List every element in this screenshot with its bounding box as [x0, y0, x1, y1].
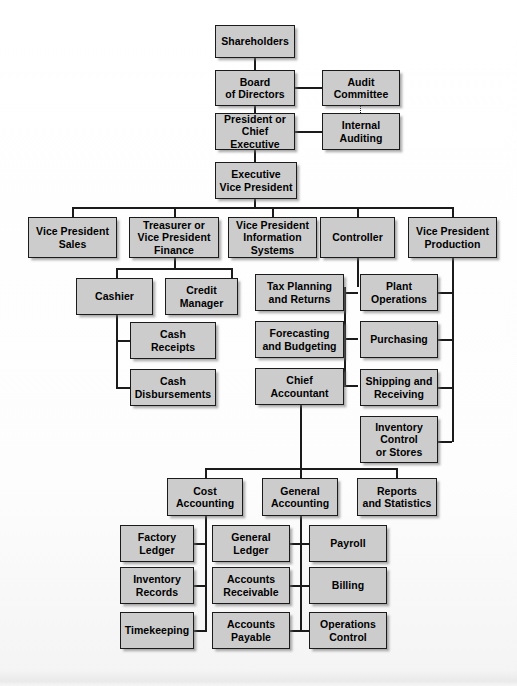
node-president[interactable]: President orChief Executive — [215, 113, 295, 150]
node-factory-ledger[interactable]: FactoryLedger — [120, 525, 194, 562]
connector-cashier-to-cash-receipts — [116, 340, 130, 342]
node-label-cost-accounting: CostAccounting — [170, 485, 240, 510]
node-label-tax-planning: Tax Planningand Returns — [258, 280, 341, 305]
node-label-audit-committee: AuditCommittee — [325, 76, 397, 101]
connector-bus-to-general-accounting — [300, 468, 302, 478]
node-label-cashier: Cashier — [79, 290, 150, 302]
node-label-vice-president-sales: Vice PresidentSales — [31, 225, 114, 250]
connector-bus-to-vp-sales — [72, 207, 74, 217]
node-label-accounts-receivable: AccountsReceivable — [215, 573, 287, 598]
connector-cashier-to-cash-disbursements — [116, 387, 130, 389]
node-label-forecasting: Forecastingand Budgeting — [258, 327, 341, 352]
node-purchasing[interactable]: Purchasing — [360, 321, 438, 358]
node-label-operations-control: OperationsControl — [312, 618, 384, 643]
node-label-shipping-receiving: Shipping andReceiving — [363, 375, 435, 400]
node-plant-operations[interactable]: PlantOperations — [360, 274, 438, 311]
node-controller[interactable]: Controller — [320, 217, 395, 258]
node-treasurer-vice-president-finance[interactable]: Treasurer orVice PresidentFinance — [129, 217, 219, 258]
connector-general-to-billing — [290, 585, 310, 587]
node-label-timekeeping: Timekeeping — [123, 624, 191, 636]
node-cashier[interactable]: Cashier — [76, 278, 153, 315]
connector-vp-production-drop — [452, 257, 454, 293]
connector-president-internal-auditing — [294, 131, 322, 133]
node-general-accounting[interactable]: GeneralAccounting — [262, 478, 338, 516]
connector-bus-to-vp-is — [272, 207, 274, 217]
node-label-vice-president-production: Vice PresidentProduction — [411, 225, 494, 250]
connector-president-executive-vp — [254, 150, 256, 162]
connector-controller-to-tax — [344, 292, 358, 294]
scan-bottom-edge — [0, 670, 517, 686]
node-credit-manager[interactable]: CreditManager — [165, 278, 238, 315]
node-label-chief-accountant: ChiefAccountant — [258, 374, 341, 399]
connector-controller-spine — [344, 287, 346, 385]
node-label-vice-president-information-systems: Vice PresidentInformationSystems — [231, 219, 314, 256]
connector-treasurer-to-credit-manager — [231, 268, 233, 278]
node-vice-president-information-systems[interactable]: Vice PresidentInformationSystems — [228, 217, 317, 258]
node-accounts-receivable[interactable]: AccountsReceivable — [212, 567, 290, 604]
node-label-general-ledger: GeneralLedger — [215, 531, 287, 556]
connector-treasurer-to-cashier — [116, 268, 118, 278]
node-billing[interactable]: Billing — [309, 567, 387, 604]
connector-bus-to-vp-production — [452, 207, 454, 217]
connector-general-to-payroll — [290, 543, 310, 545]
node-label-accounts-payable: AccountsPayable — [215, 618, 287, 643]
node-label-billing: Billing — [312, 579, 384, 591]
connector-chief-accountant-drop — [300, 405, 302, 469]
connector-production-to-purchasing — [438, 339, 452, 341]
connector-cost-accounting-spine — [205, 516, 207, 632]
node-label-purchasing: Purchasing — [363, 333, 435, 345]
node-payroll[interactable]: Payroll — [309, 525, 387, 562]
node-label-inventory-control: InventoryControlor Stores — [363, 421, 435, 458]
node-cash-receipts[interactable]: CashReceipts — [130, 322, 216, 359]
node-inventory-control-or-stores[interactable]: InventoryControlor Stores — [360, 416, 438, 463]
node-vice-president-sales[interactable]: Vice PresidentSales — [28, 217, 117, 258]
connector-cost-to-factory-ledger — [193, 543, 207, 545]
connector-general-to-operations-control — [290, 630, 310, 632]
connector-production-to-plant — [438, 292, 452, 294]
connector-production-to-inventory-control — [438, 441, 452, 443]
node-audit-committee[interactable]: AuditCommittee — [322, 70, 400, 106]
node-accounts-payable[interactable]: AccountsPayable — [212, 612, 290, 649]
connector-shareholders-board — [254, 58, 256, 70]
connector-bus-to-treasurer — [174, 207, 176, 217]
connector-controller-drop — [357, 257, 359, 287]
node-reports-and-statistics[interactable]: Reportsand Statistics — [357, 478, 437, 516]
connector-cost-to-inventory-records — [193, 585, 207, 587]
node-label-credit-manager: CreditManager — [168, 284, 235, 309]
node-tax-planning-and-returns[interactable]: Tax Planningand Returns — [255, 274, 344, 311]
node-forecasting-and-budgeting[interactable]: Forecastingand Budgeting — [255, 321, 344, 358]
connector-cashier-spine — [116, 315, 118, 388]
node-label-cash-receipts: CashReceipts — [133, 328, 213, 353]
connector-general-accounting-spine — [300, 516, 302, 632]
org-chart-canvas: Shareholders Boardof Directors AuditComm… — [0, 0, 517, 686]
node-chief-accountant[interactable]: ChiefAccountant — [255, 368, 344, 405]
node-vice-president-production[interactable]: Vice PresidentProduction — [408, 217, 497, 258]
node-label-inventory-records: InventoryRecords — [123, 573, 191, 598]
node-shipping-and-receiving[interactable]: Shipping andReceiving — [360, 369, 438, 406]
node-timekeeping[interactable]: Timekeeping — [120, 612, 194, 649]
node-board-of-directors[interactable]: Boardof Directors — [215, 70, 295, 106]
node-cost-accounting[interactable]: CostAccounting — [167, 478, 243, 516]
node-general-ledger[interactable]: GeneralLedger — [212, 525, 290, 562]
connector-production-to-shipping — [438, 387, 452, 389]
node-label-shareholders: Shareholders — [218, 35, 292, 47]
node-label-treasurer: Treasurer orVice PresidentFinance — [132, 219, 216, 256]
node-label-internal-auditing: InternalAuditing — [325, 119, 397, 144]
connector-production-spine — [452, 292, 454, 442]
node-label-controller: Controller — [323, 231, 392, 243]
node-shareholders[interactable]: Shareholders — [215, 25, 295, 58]
node-executive-vice-president[interactable]: ExecutiveVice President — [215, 162, 297, 199]
node-label-executive-vice-president: ExecutiveVice President — [218, 168, 294, 193]
node-label-general-accounting: GeneralAccounting — [265, 485, 335, 510]
connector-bus-to-controller — [357, 207, 359, 217]
node-label-president: President orChief Executive — [218, 113, 292, 150]
connector-board-audit-committee — [294, 87, 322, 89]
connector-audit-internal-dotted — [360, 105, 361, 113]
node-operations-control[interactable]: OperationsControl — [309, 612, 387, 649]
node-label-board-of-directors: Boardof Directors — [218, 76, 292, 101]
node-label-plant-operations: PlantOperations — [363, 280, 435, 305]
connector-bus-to-cost-accounting — [205, 468, 207, 478]
node-cash-disbursements[interactable]: CashDisbursements — [130, 369, 216, 406]
node-internal-auditing[interactable]: InternalAuditing — [322, 113, 400, 150]
node-inventory-records[interactable]: InventoryRecords — [120, 567, 194, 604]
